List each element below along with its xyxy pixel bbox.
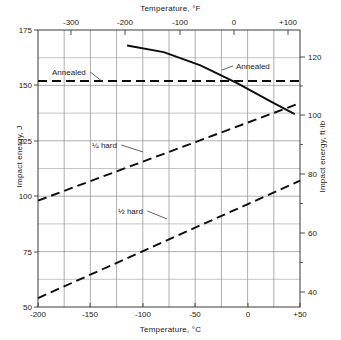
impact-energy-chart: Temperature, °F Temperature, °C Impact e… — [0, 0, 341, 340]
tick-label-bottom: -50 — [189, 310, 201, 319]
tick-label-left: 50 — [6, 303, 32, 312]
tick-label-bottom: 0 — [246, 310, 250, 319]
tick-label-right: 60 — [308, 229, 317, 238]
tick-label-bottom: -200 — [30, 310, 46, 319]
series-label: ¼ hard — [92, 141, 117, 150]
series-label: ½ hard — [118, 207, 143, 216]
tick-label-left: 175 — [6, 26, 32, 35]
tick-label-top: 0 — [232, 18, 236, 27]
tick-label-bottom: -100 — [135, 310, 151, 319]
tick-label-right: 120 — [308, 53, 321, 62]
tick-label-bottom: -150 — [82, 310, 98, 319]
series-label: Annealed — [52, 68, 86, 77]
tick-label-left: 100 — [6, 192, 32, 201]
tick-label-right: 40 — [308, 288, 317, 297]
series-line-1 — [127, 46, 295, 115]
tick-label-left: 75 — [6, 248, 32, 257]
series-label: Annealed — [236, 62, 270, 71]
tick-label-left: 125 — [6, 137, 32, 146]
plot-area — [0, 0, 341, 340]
tick-label-right: 80 — [308, 170, 317, 179]
tick-label-bottom: +50 — [293, 310, 307, 319]
tick-label-left: 150 — [6, 81, 32, 90]
tick-label-top: -100 — [172, 18, 188, 27]
tick-label-top: +100 — [279, 18, 297, 27]
tick-label-top: -200 — [117, 18, 133, 27]
tick-label-right: 100 — [308, 111, 321, 120]
tick-label-top: -300 — [63, 18, 79, 27]
